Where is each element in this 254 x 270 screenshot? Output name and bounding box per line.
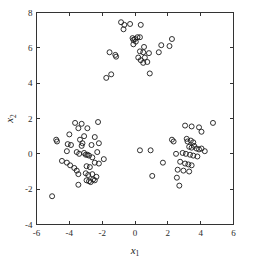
data-point (159, 43, 164, 48)
data-point (119, 20, 124, 25)
y-tick-label: 4 (28, 78, 33, 88)
data-point (189, 163, 194, 168)
data-point (156, 50, 161, 55)
data-point (147, 71, 152, 76)
data-point (68, 143, 73, 148)
data-point (199, 129, 204, 134)
data-point (183, 161, 188, 166)
data-point (137, 49, 142, 54)
x-tick-label: -6 (33, 228, 41, 238)
x-tick-label: -4 (66, 228, 74, 238)
data-point (65, 142, 70, 147)
data-point (174, 151, 179, 156)
x-tick-label: 4 (198, 228, 203, 238)
data-points (50, 20, 216, 199)
y-tick-label: 6 (28, 43, 33, 53)
data-point (148, 148, 153, 153)
data-point (177, 183, 182, 188)
series-midpoints (137, 148, 153, 153)
series-cluster-top (104, 20, 175, 81)
data-point (87, 165, 92, 170)
data-point (146, 51, 151, 56)
data-point (96, 141, 101, 146)
data-point (186, 162, 191, 167)
x-tick-label: 2 (166, 228, 171, 238)
data-point (82, 134, 87, 139)
data-point (141, 50, 146, 55)
data-point (64, 160, 69, 165)
data-point (174, 175, 179, 180)
data-point (55, 139, 60, 144)
data-point (96, 120, 101, 125)
data-point (76, 126, 81, 131)
data-point (169, 37, 174, 42)
data-point (178, 159, 183, 164)
data-point (183, 123, 188, 128)
data-point (89, 143, 94, 148)
x-tick-labels: -6-4-20246 (33, 228, 237, 238)
x-tick-label: 0 (133, 228, 138, 238)
data-point (84, 164, 89, 169)
data-point (79, 121, 84, 126)
y-axis-label: x2 (3, 114, 18, 124)
data-point (107, 50, 112, 55)
data-point (73, 120, 78, 125)
data-point (167, 44, 172, 49)
data-point (202, 149, 207, 154)
data-point (67, 132, 72, 137)
y-tick-label: 2 (28, 114, 33, 124)
data-point (95, 150, 100, 155)
y-tick-label: 8 (28, 8, 33, 18)
data-point (138, 22, 143, 27)
data-point (137, 148, 142, 153)
scatter-plot-figure: -6-4-20246 -4-202468 x1x2 (0, 0, 254, 270)
data-point (101, 157, 106, 162)
series-cluster-right (150, 120, 216, 188)
data-point (181, 168, 186, 173)
plot-canvas: -6-4-20246 -4-202468 x1x2 (0, 0, 254, 270)
data-point (114, 54, 119, 59)
y-tick-label: 0 (28, 149, 33, 159)
data-point (78, 137, 83, 142)
data-point (85, 126, 90, 131)
data-point (50, 194, 55, 199)
y-tick-labels: -4-202468 (25, 8, 33, 230)
data-point (128, 21, 133, 26)
x-tick-label: 6 (231, 228, 236, 238)
data-point (175, 167, 180, 172)
y-tick-label: -2 (25, 184, 33, 194)
y-tick-label: -4 (25, 220, 33, 230)
data-point (64, 149, 69, 154)
series-cluster-left (50, 120, 107, 199)
data-point (109, 72, 114, 77)
data-point (187, 169, 192, 174)
data-point (150, 173, 155, 178)
data-point (104, 75, 109, 80)
data-point (76, 182, 81, 187)
data-point (180, 150, 185, 155)
data-point (59, 158, 64, 163)
x-tick-label: -2 (98, 228, 106, 238)
data-point (92, 135, 97, 140)
data-point (189, 124, 194, 129)
data-point (210, 120, 215, 125)
data-point (142, 44, 147, 49)
data-point (160, 160, 165, 165)
x-axis-label: x1 (130, 244, 140, 259)
